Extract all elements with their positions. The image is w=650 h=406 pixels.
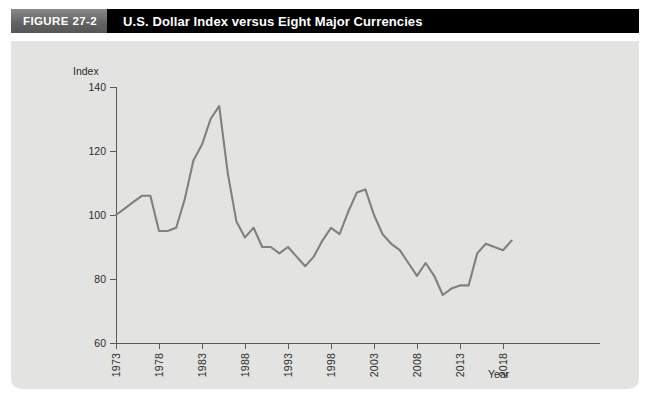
- y-tick-label-60: 60: [66, 337, 106, 349]
- y-axis-title: Index: [73, 65, 99, 77]
- plot-area: Index 6080100120140 19731978198319881993…: [11, 41, 639, 389]
- x-tick-1993: [288, 343, 289, 349]
- x-tick-1973: [116, 343, 117, 349]
- y-tick-140: [110, 87, 116, 88]
- y-tick-100: [110, 215, 116, 216]
- x-tick-1983: [202, 343, 203, 349]
- x-tick-label-1988: 1988: [239, 353, 251, 377]
- x-tick-label-1983: 1983: [196, 353, 208, 377]
- figure-number-label: FIGURE 27-2: [11, 9, 107, 33]
- x-tick-label-1978: 1978: [153, 353, 165, 377]
- dollar-index-line: [116, 106, 512, 295]
- figure-header-bar: FIGURE 27-2 U.S. Dollar Index versus Eig…: [11, 9, 639, 33]
- y-tick-80: [110, 279, 116, 280]
- x-axis-line: [116, 343, 600, 344]
- x-tick-2008: [417, 343, 418, 349]
- x-tick-2018: [503, 343, 504, 349]
- y-tick-label-80: 80: [66, 273, 106, 285]
- x-tick-label-1998: 1998: [325, 353, 337, 377]
- y-axis-line: [116, 87, 117, 344]
- x-tick-label-2008: 2008: [411, 353, 423, 377]
- x-tick-label-1993: 1993: [282, 353, 294, 377]
- x-tick-label-2013: 2013: [454, 353, 466, 377]
- x-tick-2003: [374, 343, 375, 349]
- y-tick-label-120: 120: [66, 145, 106, 157]
- x-tick-1988: [245, 343, 246, 349]
- y-tick-label-100: 100: [66, 209, 106, 221]
- chart-panel: Index 6080100120140 19731978198319881993…: [11, 41, 639, 389]
- x-tick-1978: [159, 343, 160, 349]
- x-axis-title: Year: [488, 368, 509, 380]
- y-tick-120: [110, 151, 116, 152]
- figure-title: U.S. Dollar Index versus Eight Major Cur…: [107, 9, 422, 33]
- x-tick-1998: [331, 343, 332, 349]
- y-tick-label-140: 140: [66, 81, 106, 93]
- x-tick-label-1973: 1973: [110, 353, 122, 377]
- x-tick-2013: [460, 343, 461, 349]
- caption-partial-text: [150, 396, 645, 404]
- x-tick-label-2003: 2003: [368, 353, 380, 377]
